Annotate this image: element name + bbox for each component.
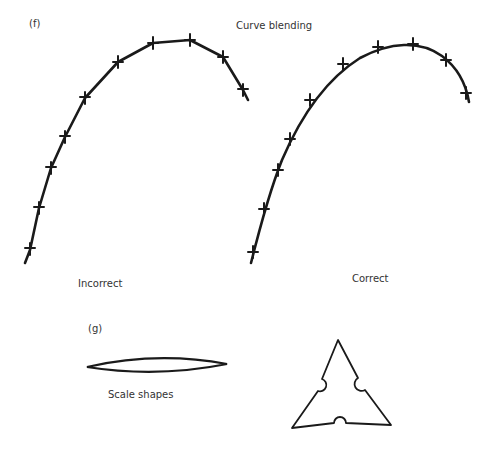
diagram-canvas: [0, 0, 499, 449]
notched-triangle-shape: [292, 340, 391, 428]
incorrect-curve: [25, 34, 248, 263]
correct-curve: [248, 38, 471, 263]
lens-scale-shape: [87, 358, 227, 372]
